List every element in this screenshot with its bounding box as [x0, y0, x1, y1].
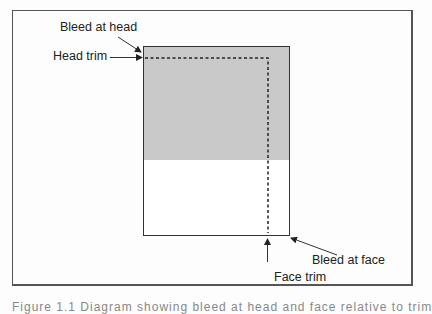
head-trim-label: Head trim: [53, 49, 107, 63]
trim-line: [145, 58, 268, 233]
figure-caption: Figure 1.1 Diagram showing bleed at head…: [12, 300, 432, 314]
face-trim-label: Face trim: [274, 270, 326, 284]
bleed-at-head-arrow: [118, 37, 141, 52]
bleed-at-face-label: Bleed at face: [312, 253, 385, 267]
bleed-at-head-label: Bleed at head: [60, 20, 137, 34]
